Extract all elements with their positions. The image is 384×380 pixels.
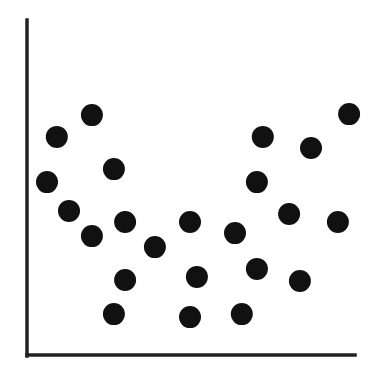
scatter-point-20 bbox=[300, 137, 322, 159]
scatter-point-1 bbox=[46, 126, 68, 148]
scatter-point-5 bbox=[103, 158, 125, 180]
scatter-point-21 bbox=[327, 211, 349, 233]
scatter-point-19 bbox=[289, 270, 311, 292]
scatter-point-3 bbox=[81, 104, 103, 126]
scatter-point-6 bbox=[103, 303, 125, 325]
data-points bbox=[36, 103, 360, 328]
scatter-point-14 bbox=[231, 303, 253, 325]
scatter-point-4 bbox=[81, 225, 103, 247]
scatter-point-0 bbox=[36, 171, 58, 193]
scatter-point-16 bbox=[246, 171, 268, 193]
scatter-point-12 bbox=[186, 266, 208, 288]
scatter-point-17 bbox=[252, 126, 274, 148]
scatter-point-9 bbox=[144, 236, 166, 258]
scatter-point-7 bbox=[114, 211, 136, 233]
scatter-point-22 bbox=[338, 103, 360, 125]
scatter-point-15 bbox=[246, 258, 268, 280]
scatter-point-8 bbox=[114, 269, 136, 291]
scatter-point-2 bbox=[58, 200, 80, 222]
scatter-point-11 bbox=[179, 211, 201, 233]
scatter-point-13 bbox=[224, 222, 246, 244]
scatter-point-10 bbox=[179, 306, 201, 328]
scatter-chart bbox=[0, 0, 384, 380]
scatter-point-18 bbox=[278, 203, 300, 225]
